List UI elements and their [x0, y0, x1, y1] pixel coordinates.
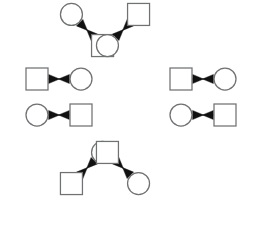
- arrowhead-6-2: [202, 110, 213, 119]
- diagram-canvas: [0, 0, 262, 244]
- node-3-source-circle[interactable]: [60, 3, 82, 25]
- node-2-source-circle[interactable]: [26, 104, 48, 126]
- node-pair[interactable]: [170, 104, 236, 126]
- node-pair[interactable]: [96, 3, 149, 56]
- node-6-target-square[interactable]: [214, 104, 236, 126]
- node-8-source-square[interactable]: [96, 141, 118, 163]
- node-6-source-circle[interactable]: [170, 104, 192, 126]
- arrowhead-1-2: [58, 74, 69, 83]
- node-pair[interactable]: [26, 68, 92, 90]
- node-7-target-square[interactable]: [60, 173, 82, 195]
- node-5-source-square[interactable]: [170, 68, 192, 90]
- arrowhead-2-2: [58, 110, 69, 119]
- node-pair[interactable]: [96, 141, 149, 194]
- node-1-source-square[interactable]: [26, 68, 48, 90]
- arrowhead-5-2: [202, 74, 213, 83]
- node-pairs-layer: [26, 3, 236, 194]
- node-pair[interactable]: [26, 104, 92, 126]
- node-4-target-circle[interactable]: [96, 35, 118, 57]
- node-2-target-square[interactable]: [70, 104, 92, 126]
- node-4-source-square[interactable]: [128, 3, 150, 25]
- node-1-target-circle[interactable]: [70, 68, 92, 90]
- node-8-target-circle[interactable]: [128, 173, 150, 195]
- node-pair[interactable]: [170, 68, 236, 90]
- node-5-target-circle[interactable]: [214, 68, 236, 90]
- diagram-svg: [0, 0, 262, 244]
